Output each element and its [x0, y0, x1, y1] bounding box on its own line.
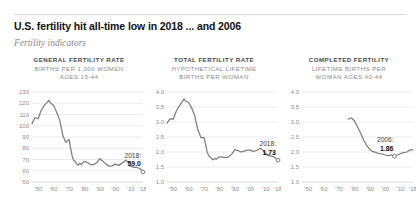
svg-text:2006:: 2006: [377, 136, 394, 143]
svg-text:'18: '18 [274, 186, 281, 192]
plot-area: 4.03.53.02.52.01.51.02006:1.86'50'60'70'… [282, 86, 416, 204]
top-divider [14, 14, 406, 15]
svg-text:2018:: 2018: [259, 140, 276, 147]
svg-text:2018:: 2018: [124, 152, 141, 159]
line-plot-svg: 4.03.53.02.52.01.51.02006:1.86'50'60'70'… [282, 86, 416, 204]
svg-text:'70: '70 [65, 186, 73, 192]
svg-text:2.0: 2.0 [291, 149, 300, 155]
svg-text:'18: '18 [409, 186, 416, 192]
line-plot-svg: 4.03.53.02.52.01.51.02018:1.73'50'60'70'… [147, 86, 281, 204]
chart-page: U.S. fertility hit all-time low in 2018 … [0, 0, 420, 204]
svg-text:1.73: 1.73 [262, 149, 276, 156]
svg-text:'50: '50 [304, 186, 312, 192]
svg-text:'60: '60 [185, 186, 193, 192]
chart-panel-general-fertility-rate: GENERAL FERTILITY RATE BIRTHS PER 1,000 … [12, 56, 146, 204]
svg-text:'60: '60 [50, 186, 58, 192]
svg-text:'80: '80 [216, 186, 224, 192]
panel-subtitle-line-2: BIRTHS PER WOMAN [147, 73, 281, 82]
chart-panels: GENERAL FERTILITY RATE BIRTHS PER 1,000 … [0, 56, 420, 204]
svg-text:120: 120 [19, 100, 30, 106]
page-subtitle: Fertility indicators [14, 38, 86, 48]
chart-panel-total-fertility-rate: TOTAL FERTILITY RATE HYPOTHETICAL LIFETI… [147, 56, 281, 204]
svg-text:50: 50 [22, 179, 29, 185]
svg-text:'00: '00 [381, 186, 389, 192]
svg-text:70: 70 [22, 157, 29, 163]
plot-area: 13012011010090807060502018:59.0'50'60'70… [12, 86, 146, 204]
svg-text:'90: '90 [231, 186, 239, 192]
svg-text:'60: '60 [320, 186, 328, 192]
line-plot-svg: 13012011010090807060502018:59.0'50'60'70… [12, 86, 146, 204]
svg-text:'50: '50 [169, 186, 177, 192]
panel-title: COMPLETED FERTILITY [282, 56, 416, 65]
chart-panel-completed-fertility: COMPLETED FERTILITY LIFETIME BIRTHS PER … [282, 56, 416, 204]
page-title: U.S. fertility hit all-time low in 2018 … [14, 20, 241, 32]
svg-text:1.5: 1.5 [156, 164, 165, 170]
svg-text:'10: '10 [262, 186, 270, 192]
svg-text:59.0: 59.0 [127, 160, 141, 167]
svg-text:3.5: 3.5 [156, 104, 165, 110]
svg-text:1.0: 1.0 [156, 179, 165, 185]
svg-text:'70: '70 [335, 186, 343, 192]
svg-text:'80: '80 [351, 186, 359, 192]
svg-text:90: 90 [22, 134, 29, 140]
svg-text:100: 100 [19, 123, 30, 129]
svg-text:130: 130 [19, 89, 30, 95]
svg-text:'90: '90 [366, 186, 374, 192]
svg-text:3.0: 3.0 [156, 119, 165, 125]
svg-text:3.0: 3.0 [291, 119, 300, 125]
svg-text:'50: '50 [34, 186, 42, 192]
svg-text:'70: '70 [200, 186, 208, 192]
svg-text:60: 60 [22, 168, 29, 174]
svg-text:1.5: 1.5 [291, 164, 300, 170]
svg-text:2.5: 2.5 [156, 134, 165, 140]
svg-text:'80: '80 [81, 186, 89, 192]
svg-text:'18: '18 [139, 186, 146, 192]
panel-subtitle-line-1: BIRTHS PER 1,000 WOMEN [12, 65, 146, 74]
svg-text:1.86: 1.86 [380, 145, 394, 152]
svg-text:3.5: 3.5 [291, 104, 300, 110]
panel-subtitle-line-2: AGES 15-44 [12, 73, 146, 82]
plot-area: 4.03.53.02.52.01.51.02018:1.73'50'60'70'… [147, 86, 281, 204]
panel-title: TOTAL FERTILITY RATE [147, 56, 281, 65]
svg-text:4.0: 4.0 [291, 89, 300, 95]
svg-text:80: 80 [22, 145, 29, 151]
svg-text:'00: '00 [111, 186, 119, 192]
panel-title: GENERAL FERTILITY RATE [12, 56, 146, 65]
svg-text:2.0: 2.0 [156, 149, 165, 155]
svg-text:1.0: 1.0 [291, 179, 300, 185]
svg-text:'10: '10 [397, 186, 405, 192]
panel-subtitle-line-2: WOMAN AGES 40-44 [282, 73, 416, 82]
svg-text:'10: '10 [127, 186, 135, 192]
panel-subtitle-line-1: LIFETIME BIRTHS PER [282, 65, 416, 74]
svg-text:110: 110 [19, 112, 29, 118]
svg-text:2.5: 2.5 [291, 134, 300, 140]
panel-subtitle-line-1: HYPOTHETICAL LIFETIME [147, 65, 281, 74]
svg-text:'00: '00 [246, 186, 254, 192]
svg-text:'90: '90 [96, 186, 104, 192]
svg-text:4.0: 4.0 [156, 89, 165, 95]
